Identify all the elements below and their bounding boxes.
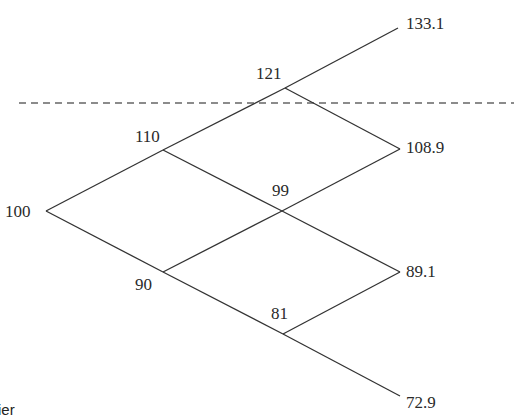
edge-99-108 [282,149,400,211]
edge-121-108 [285,88,400,149]
node-uud3-label: 108.9 [406,139,444,156]
node-ddd3-label: 72.9 [406,394,436,411]
edge-100-110 [46,150,163,211]
tree-lines [0,0,514,415]
node-ud2-label: 99 [272,182,289,199]
node-root-label: 100 [5,203,31,220]
edge-100-90 [46,211,163,272]
edge-110-121 [163,88,285,150]
node-dd2-label: 81 [271,305,288,322]
node-udd3-label: 89.1 [406,263,436,280]
edge-90-81 [163,272,283,334]
node-up1-label: 110 [135,128,160,145]
edge-99-89 [282,211,400,272]
binomial-tree-diagram: 100 110 90 121 99 81 133.1 108.9 89.1 72… [0,0,514,415]
node-uu2-label: 121 [256,65,282,82]
edge-90-99 [163,211,282,272]
node-down1-label: 90 [135,276,152,293]
edge-121-133 [285,28,398,88]
edge-110-99 [163,150,282,211]
node-uuu3-label: 133.1 [406,15,444,32]
cropped-caption-fragment: ier [0,402,15,415]
edge-81-72 [283,334,400,396]
edge-81-89 [283,272,400,334]
